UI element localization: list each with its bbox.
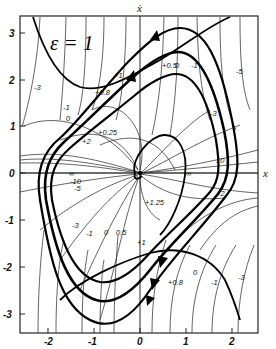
phase-portrait-diagram: -2 -1 0 1 2 3 2 1 0 -1 -2 -3 ẋ x ε = 1 [0,0,276,349]
isocline-label: 0 [193,268,198,277]
isocline-label: +1 [137,238,146,247]
y-tick-label: 0 [9,168,15,179]
isoclines [20,17,258,333]
isocline-label: +0.8 [95,88,111,97]
x-tick-label: 1 [183,336,189,347]
trajectory-arrow-icon [150,30,160,41]
isocline-label: -5 [236,67,243,76]
y-tick-label: 1 [10,121,16,132]
isocline-label: -3 [238,273,245,282]
isocline-label: -1 [191,61,198,70]
y-ticks [20,33,25,314]
isocline-label: -5 [74,184,81,193]
y-axis-title: ẋ [136,2,142,14]
isocline-label: +0.25 [98,128,118,137]
y-tick-label: 3 [9,28,15,39]
x-tick-label: 0 [137,336,143,347]
isocline-label: -3 [34,83,41,92]
isocline-label: -3 [72,221,79,230]
isocline-label: +1.25 [145,198,165,207]
x-ticks [48,328,232,333]
y-tick-label: -3 [3,309,12,320]
isocline-label: -1 [63,103,70,112]
isocline-label: +2 [82,137,91,146]
y-tick-label: 2 [8,75,15,86]
x-tick-label: -2 [44,336,53,347]
isocline-label: -1 [211,278,218,287]
x-tick-label: -1 [88,336,97,347]
epsilon-parameter-label: ε = 1 [50,31,93,55]
x-tick-label: 2 [228,336,235,347]
trajectory-arrow-icon [126,70,136,82]
origin-point [138,171,142,175]
isocline-label: 0 [104,228,109,237]
isocline-label: +0.8 [168,278,184,287]
x-axis-title: x [262,167,268,179]
isocline-label: +2 [216,189,225,198]
isocline-label: -3 [210,109,217,118]
isocline-label: 0 [175,61,180,70]
y-tick-label: -2 [3,262,12,273]
isocline-label: +1 [114,71,123,80]
isocline-label: 0 [66,114,71,123]
y-tick-label: -1 [5,215,14,226]
isocline-label: 0.5 [116,228,127,237]
isocline-label: -1 [86,229,93,238]
isocline-label: ∞ [186,169,191,178]
isocline-label: 10 [216,156,225,165]
